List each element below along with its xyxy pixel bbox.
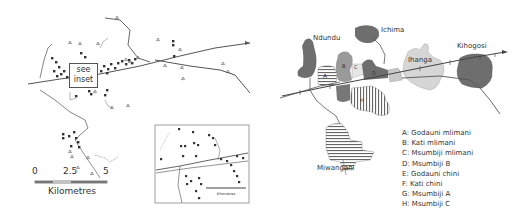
zone-e	[336, 84, 350, 102]
legend-item-g: G: Msumbiji A	[402, 189, 473, 199]
scale-tick-2-5: 2.5	[63, 166, 77, 176]
zone-ndundu	[298, 38, 317, 78]
scale-bar	[35, 181, 107, 183]
see-inset-line1: see	[70, 65, 97, 75]
see-inset-label: see inset	[69, 63, 98, 88]
inset-scale-unit: Kilometres	[217, 192, 236, 196]
legend-item-e: E: Godauni chini	[402, 169, 473, 179]
zone-h	[350, 86, 390, 116]
see-inset-line2: inset	[70, 75, 97, 85]
legend-item-a: A: Godauni mlimani	[402, 128, 473, 138]
road-line	[155, 60, 250, 93]
place-ndundu: Ndundu	[313, 34, 340, 42]
place-ihanga: Ihanga	[408, 56, 432, 64]
zone-letter-d: D	[372, 70, 376, 76]
zone-f	[388, 68, 402, 82]
legend-item-c: C: Msumbiji mlimani	[402, 148, 473, 158]
inset-map: Kilometres	[155, 125, 249, 203]
scale-tick-0: 0	[32, 166, 38, 176]
legend-item-f: F: Kati chini	[402, 179, 473, 189]
place-kihogosi: Kihogosi	[457, 42, 487, 50]
zone-letter-b: B	[342, 63, 346, 69]
railway-line	[28, 43, 250, 84]
river-line	[105, 18, 150, 62]
legend-item-d: D: Msumbiji B	[402, 159, 473, 169]
legend-item-h: H: Msumbiji C	[402, 199, 473, 209]
left-map: Kilometres	[28, 16, 250, 203]
zone-letter-h: H	[360, 97, 364, 103]
scale-tick-5: 5	[103, 166, 109, 176]
zone-letter-c: C	[354, 64, 358, 70]
zone-legend: A: Godauni mlimani B: Kati mlimani C: Ms…	[402, 128, 473, 210]
place-ichima: Ichima	[381, 26, 404, 34]
place-miwangani: Miwangani	[317, 164, 355, 172]
scale-unit: Kilometres	[48, 186, 96, 196]
legend-item-b: B: Kati mlimani	[402, 138, 473, 148]
